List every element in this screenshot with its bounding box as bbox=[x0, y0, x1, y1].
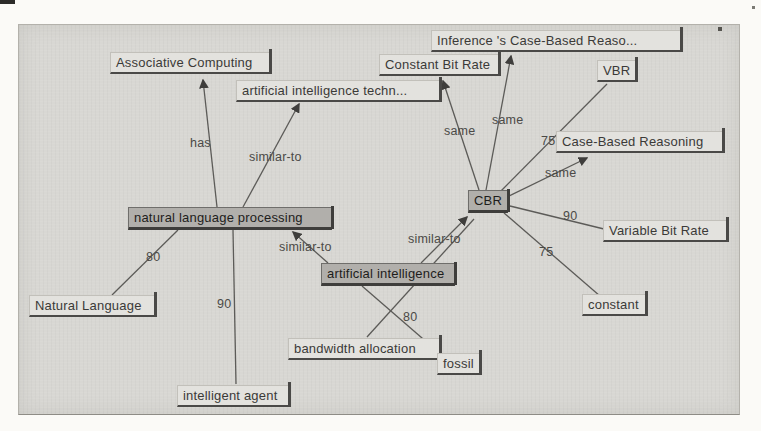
edge-label-similar-to: similar-to bbox=[249, 150, 302, 164]
edge-weight-intelligent-agent: 90 bbox=[217, 297, 231, 311]
node-variable-bit-rate[interactable]: Variable Bit Rate bbox=[603, 220, 726, 242]
edge-label-same: same bbox=[492, 113, 523, 127]
node-artificial-intelligence-techniques[interactable]: artificial intelligence techn... bbox=[236, 80, 439, 102]
node-cbr[interactable]: CBR bbox=[468, 190, 508, 213]
node-constant[interactable]: constant bbox=[582, 294, 645, 316]
node-natural-language-processing[interactable]: natural language processing bbox=[128, 207, 332, 230]
node-vbr[interactable]: VBR bbox=[597, 60, 635, 82]
edge-weight-fossil: 80 bbox=[403, 310, 417, 324]
edge-label-same: same bbox=[444, 124, 475, 138]
edge-label-similar-to: similar-to bbox=[408, 232, 461, 246]
edge-nlp-natural-language bbox=[112, 230, 178, 295]
node-associative-computing[interactable]: Associative Computing bbox=[110, 52, 269, 74]
edge-label-has: has bbox=[190, 136, 211, 150]
node-natural-language[interactable]: Natural Language bbox=[29, 295, 154, 317]
node-artificial-intelligence[interactable]: artificial intelligence bbox=[321, 263, 455, 286]
node-constant-bit-rate[interactable]: Constant Bit Rate bbox=[379, 54, 498, 76]
node-intelligent-agent[interactable]: intelligent agent bbox=[177, 385, 288, 407]
concept-map-figure: has similar-to similar-to similar-to sam… bbox=[0, 0, 761, 431]
node-bandwidth-allocation[interactable]: bandwidth allocation bbox=[288, 338, 439, 360]
node-case-based-reasoning[interactable]: Case-Based Reasoning bbox=[556, 131, 722, 153]
edge-weight-vbr: 75 bbox=[541, 134, 555, 148]
edge-weight-constant: 75 bbox=[539, 245, 553, 259]
edge-weight-natural-language: 80 bbox=[146, 250, 160, 264]
node-inference-case-based-reasoning[interactable]: Inference 's Case-Based Reaso... bbox=[431, 30, 680, 52]
node-fossil[interactable]: fossil bbox=[437, 353, 479, 375]
edge-weight-variable-bit-rate: 90 bbox=[563, 209, 577, 223]
edge-nlp-intelligent-agent bbox=[233, 230, 236, 384]
edge-label-similar-to: similar-to bbox=[279, 240, 332, 254]
edge-cbr-variable-bit-rate bbox=[510, 206, 604, 229]
edge-label-same: same bbox=[545, 166, 576, 180]
